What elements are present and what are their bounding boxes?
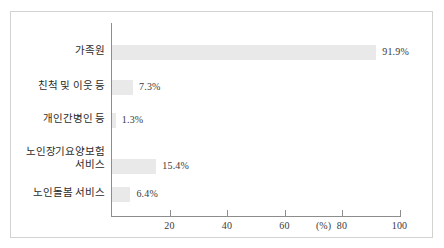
x-axis-tick: [227, 210, 228, 217]
category-label: 노인돌봄 서비스: [15, 187, 105, 200]
plot-area: 가족원91.9%친척 및 이웃 등7.3%개인간병인 등1.3%노인장기요양보험…: [11, 12, 432, 237]
x-axis-tick-label: 20: [164, 220, 174, 231]
chart-frame: 가족원91.9%친척 및 이웃 등7.3%개인간병인 등1.3%노인장기요양보험…: [10, 11, 433, 238]
bar-row: 개인간병인 등1.3%: [11, 106, 432, 136]
x-axis-tick: [400, 210, 401, 217]
x-axis-line: [111, 216, 401, 217]
x-axis-tick-label: 100: [392, 220, 408, 231]
bar-row: 가족원91.9%: [11, 38, 432, 68]
bar-value-label: 7.3%: [139, 81, 161, 92]
x-axis-tick-label: 60: [279, 220, 289, 231]
bar: [112, 45, 376, 60]
bar-value-label: 1.3%: [122, 114, 144, 125]
category-label: 가족원: [15, 45, 105, 58]
bar-row: 노인돌봄 서비스6.4%: [11, 180, 432, 210]
bar-value-label: 15.4%: [162, 160, 189, 171]
x-axis-tick: [342, 210, 343, 217]
bar: [112, 187, 130, 202]
x-axis-tick: [285, 210, 286, 217]
bar: [112, 113, 116, 128]
category-label: 친척 및 이웃 등: [15, 80, 105, 93]
bar-value-label: 91.9%: [382, 46, 409, 57]
x-axis-tick: [170, 210, 171, 217]
bar-row: 노인장기요양보험 서비스15.4%: [11, 145, 432, 175]
bar: [112, 80, 133, 95]
category-label: 노인장기요양보험 서비스: [15, 146, 105, 171]
bar-value-label: 6.4%: [136, 188, 158, 199]
bar-row: 친척 및 이웃 등7.3%: [11, 73, 432, 103]
bar: [112, 159, 156, 174]
x-axis-tick-label: 40: [222, 220, 232, 231]
category-label: 개인간병인 등: [15, 113, 105, 126]
x-axis-tick-label: 80: [337, 220, 347, 231]
x-axis-unit-label: (%): [316, 220, 331, 231]
